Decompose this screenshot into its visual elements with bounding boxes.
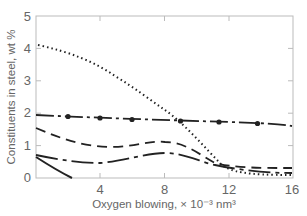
dash-dot-markers-series (36, 115, 292, 126)
y-axis-label: Constituents in steel, wt % (5, 30, 17, 165)
svg-text:0: 0 (24, 170, 31, 185)
dash-dot-series (36, 153, 292, 173)
svg-text:1: 1 (24, 138, 31, 153)
svg-text:5: 5 (24, 9, 31, 24)
svg-text:3: 3 (24, 73, 31, 88)
x-axis-label: Oxygen blowing, × 10⁻³ nm³ (92, 198, 236, 210)
svg-text:4: 4 (24, 41, 31, 56)
y-tick-labels: 0 1 2 3 4 5 (24, 9, 31, 185)
svg-text:4: 4 (96, 182, 103, 197)
x-tick-labels: 4 8 12 16 (96, 182, 299, 197)
dotted-series (38, 45, 292, 175)
svg-text:8: 8 (161, 182, 168, 197)
svg-text:12: 12 (222, 182, 236, 197)
svg-text:2: 2 (24, 105, 31, 120)
chart: 0 1 2 3 4 5 4 8 12 16 Oxygen blowing, × … (0, 0, 307, 216)
svg-text:16: 16 (285, 182, 299, 197)
